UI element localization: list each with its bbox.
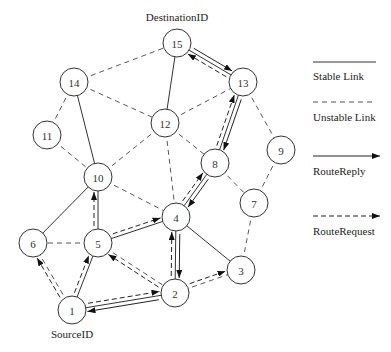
network-diagram: 123456789101112131415 DestinationID Sour… [0, 0, 391, 352]
node-label: 2 [172, 288, 178, 300]
route-request-arrow [217, 95, 235, 146]
node-label: 8 [212, 158, 218, 170]
node-label: 15 [172, 38, 184, 50]
route-request-arrow [74, 256, 88, 293]
stable-link [72, 293, 175, 310]
node-label: 6 [30, 238, 36, 250]
node-2: 2 [161, 279, 189, 307]
node-label: 14 [69, 77, 81, 89]
legend: Stable Link Unstable Link RouteReply Rou… [313, 62, 380, 237]
node-label: 1 [69, 305, 75, 317]
route-reply-arrow [224, 99, 242, 150]
legend-stable-label: Stable Link [313, 70, 365, 82]
unstable-link [74, 82, 165, 123]
node-4: 4 [162, 203, 190, 231]
node-9: 9 [267, 136, 295, 164]
node-11: 11 [33, 121, 61, 149]
node-label: 10 [93, 172, 105, 184]
route-request-arrow [108, 255, 158, 288]
node-label: 13 [238, 77, 250, 89]
node-label: 12 [160, 118, 171, 130]
node-label: 5 [95, 238, 101, 250]
node-13: 13 [229, 68, 257, 96]
node-6: 6 [19, 229, 47, 257]
node-label: 4 [173, 212, 179, 224]
route-request-arrow [37, 258, 60, 297]
route-request-arrow [113, 218, 161, 234]
node-label: 3 [238, 265, 244, 277]
route-reply-arrow [188, 179, 208, 207]
node-1: 1 [58, 296, 86, 324]
node-8: 8 [201, 149, 229, 177]
unstable-link [74, 43, 177, 82]
node-3: 3 [227, 256, 255, 284]
legend-reply-label: RouteReply [313, 165, 366, 177]
node-label: 11 [42, 130, 53, 142]
route-request-arrow [188, 54, 226, 77]
node-15: 15 [163, 29, 191, 57]
node-5: 5 [84, 229, 112, 257]
legend-unstable-label: Unstable Link [313, 111, 376, 123]
destination-label: DestinationID [146, 11, 208, 23]
node-14: 14 [60, 68, 88, 96]
legend-request-label: RouteRequest [313, 225, 375, 237]
route-request-arrow [183, 173, 203, 201]
node-12: 12 [151, 109, 179, 137]
stable-link [74, 82, 98, 177]
node-10: 10 [84, 163, 112, 191]
node-label: 9 [278, 145, 284, 157]
node-7: 7 [240, 189, 268, 217]
route-request-arrow [171, 232, 172, 276]
source-label: SourceID [51, 328, 93, 340]
route-reply-arrow [179, 234, 180, 278]
node-label: 7 [251, 198, 257, 210]
route-reply-arrow [194, 48, 232, 71]
